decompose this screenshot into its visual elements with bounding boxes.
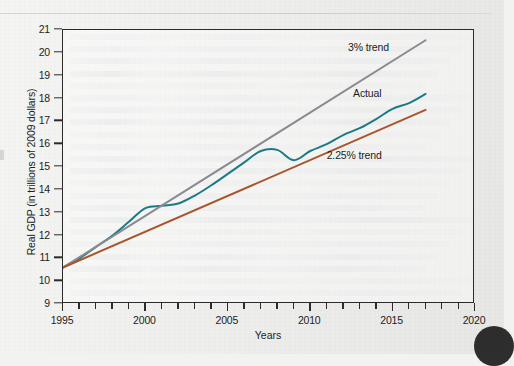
y-axis-tick-label: 14 (39, 183, 50, 195)
y-axis-tick-label: 19 (39, 69, 50, 81)
y-axis-tick-label: 20 (39, 46, 50, 58)
x-axis-tick-mark (243, 303, 244, 309)
y-axis-tick-mark (54, 188, 62, 189)
y-axis-tick-mark (54, 234, 62, 235)
x-axis-title: Years (62, 329, 474, 341)
x-axis-tick-mark (474, 303, 475, 311)
x-axis-tick-mark (128, 303, 129, 309)
x-axis-tick-mark (144, 303, 145, 311)
series-line-2-25-trend (63, 110, 426, 268)
x-axis-tick-mark (441, 303, 442, 309)
x-axis-tick-mark (161, 303, 162, 309)
x-axis-tick-label: 2005 (216, 314, 239, 326)
y-axis-tick-label: 10 (39, 274, 50, 286)
series-label-actual: Actual (353, 87, 381, 99)
x-axis-tick-mark (293, 303, 294, 309)
y-axis-tick-mark (54, 211, 62, 212)
x-axis-tick-mark (194, 303, 195, 309)
y-axis-tick-mark (54, 257, 62, 258)
x-axis-tick-mark (309, 303, 310, 311)
x-axis-tick-label: 2000 (133, 314, 156, 326)
y-axis-tick-label: 15 (39, 160, 50, 172)
x-axis-tick-label: 2015 (380, 314, 403, 326)
chart-plot-area: 3% trend Actual 2.25% trend (62, 29, 474, 303)
page-corner-artifact (474, 326, 514, 366)
x-axis-tick-mark (326, 303, 327, 309)
x-axis-tick-mark (359, 303, 360, 309)
y-axis-tick-label: 16 (39, 137, 50, 149)
x-axis-tick-label: 2020 (463, 314, 486, 326)
y-axis-tick-label: 18 (39, 92, 50, 104)
series-line-actual (63, 94, 426, 268)
y-axis-tick-label: 17 (39, 114, 50, 126)
y-axis-tick-mark (54, 120, 62, 121)
x-axis-tick-mark (260, 303, 261, 309)
x-axis-tick-mark (408, 303, 409, 309)
series-label-2point25-percent-trend: 2.25% trend (327, 149, 382, 161)
y-axis-tick-mark (54, 165, 62, 166)
y-axis-tick-mark (54, 97, 62, 98)
chart-series-canvas (63, 30, 475, 304)
x-axis-tick-mark (458, 303, 459, 309)
x-axis-tick-label: 1995 (51, 314, 74, 326)
x-axis-tick-mark (111, 303, 112, 309)
x-axis-tick-mark (95, 303, 96, 309)
y-axis-tick-mark (54, 302, 62, 303)
y-axis-tick-mark (54, 51, 62, 52)
y-axis-tick-label: 12 (39, 229, 50, 241)
x-axis-tick-mark (375, 303, 376, 309)
y-axis-tick-label: 11 (40, 251, 51, 263)
y-axis-tick-mark (54, 28, 62, 29)
x-axis-tick-mark (227, 303, 228, 311)
y-axis-tick-label: 21 (39, 23, 50, 35)
x-axis-tick-mark (62, 303, 63, 311)
x-axis-tick-mark (276, 303, 277, 309)
x-axis-tick-mark (177, 303, 178, 309)
y-axis-title: Real GDP (in trillions of 2009 dollars) (25, 57, 37, 287)
x-axis-tick-mark (342, 303, 343, 309)
x-axis-tick-mark (425, 303, 426, 309)
x-axis-tick-mark (210, 303, 211, 309)
series-label-3-percent-trend: 3% trend (348, 41, 389, 53)
y-axis-tick-label: 9 (44, 297, 50, 309)
y-axis-tick-mark (54, 74, 62, 75)
y-axis-tick-mark (54, 142, 62, 143)
x-axis-tick-label: 2010 (298, 314, 321, 326)
x-axis-tick-mark (392, 303, 393, 311)
x-axis-tick-mark (78, 303, 79, 309)
y-axis-tick-label: 13 (39, 206, 50, 218)
y-axis-tick-mark (54, 279, 62, 280)
page-top-rule (0, 13, 492, 14)
